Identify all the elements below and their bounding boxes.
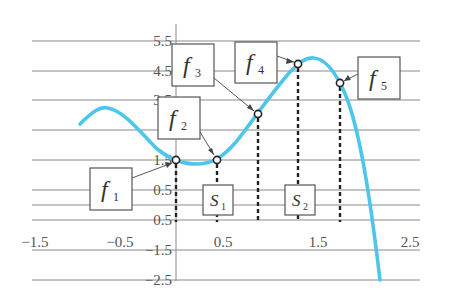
- svg-text:−2.5: −2.5: [145, 272, 172, 288]
- point-f1: [172, 156, 179, 163]
- svg-text:S: S: [292, 191, 301, 210]
- svg-text:1.5: 1.5: [309, 234, 328, 250]
- label-f5: f 5: [358, 57, 400, 99]
- diagram-canvas: 5.5 4.5 3.5 2 1.5 0.5 0.5 −1.5 −2.5 −1.5…: [0, 0, 450, 305]
- svg-text:−1.5: −1.5: [21, 234, 48, 250]
- svg-text:S: S: [210, 191, 219, 210]
- x-tick-labels: −1.5 −0.5 0.5 1.5 2.5: [21, 234, 419, 250]
- svg-text:5.5: 5.5: [153, 33, 172, 49]
- label-f4: f 4: [235, 42, 277, 83]
- svg-text:4: 4: [258, 63, 264, 77]
- svg-text:−1.5: −1.5: [145, 242, 172, 258]
- svg-text:5: 5: [381, 79, 387, 93]
- svg-text:2.5: 2.5: [401, 234, 420, 250]
- function-diagram: 5.5 4.5 3.5 2 1.5 0.5 0.5 −1.5 −2.5 −1.5…: [0, 0, 450, 305]
- point-f3: [254, 110, 261, 117]
- svg-text:0.5: 0.5: [153, 212, 172, 228]
- svg-text:2: 2: [181, 119, 187, 133]
- label-s1: S 1: [203, 185, 233, 215]
- label-f2: f 2: [158, 97, 200, 139]
- svg-text:1: 1: [113, 190, 119, 204]
- label-f3: f 3: [172, 44, 214, 86]
- label-s2: S 2: [285, 185, 315, 215]
- svg-text:0.5: 0.5: [153, 182, 172, 198]
- svg-text:1: 1: [221, 201, 226, 212]
- point-f2: [213, 156, 220, 163]
- svg-text:3: 3: [195, 66, 201, 80]
- svg-text:−0.5: −0.5: [106, 234, 133, 250]
- svg-text:2: 2: [303, 201, 308, 212]
- label-f1: f 1: [90, 168, 132, 210]
- point-f4: [294, 60, 301, 67]
- point-f5: [336, 79, 343, 86]
- svg-text:0.5: 0.5: [214, 234, 233, 250]
- svg-text:4.5: 4.5: [153, 63, 172, 79]
